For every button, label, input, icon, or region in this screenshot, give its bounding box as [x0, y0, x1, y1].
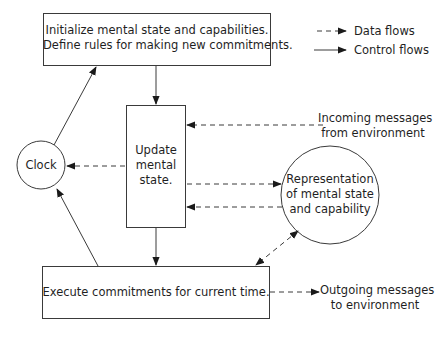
init-line-1: Initialize mental state and capabilities…: [43, 23, 271, 38]
incoming-line-2: from environment: [318, 126, 428, 141]
update-line-2: mental: [126, 158, 186, 173]
representation-line-2: of mental state: [282, 187, 378, 202]
outgoing-line-1: Outgoing messages: [320, 283, 430, 298]
update-box-label: Update mental state.: [126, 143, 186, 188]
edge-representation-execute: [256, 231, 298, 265]
representation-label: Representation of mental state and capab…: [282, 172, 378, 217]
init-box-label: Initialize mental state and capabilities…: [43, 23, 271, 53]
representation-line-3: and capability: [282, 202, 378, 217]
outgoing-messages-label: Outgoing messages to environment: [320, 283, 430, 313]
legend-data-flows: Data flows: [354, 24, 415, 39]
execute-box-label: Execute commitments for current time.: [42, 285, 270, 300]
incoming-line-1: Incoming messages: [318, 111, 428, 126]
incoming-messages-label: Incoming messages from environment: [318, 111, 428, 141]
init-line-2: Define rules for making new commitments.: [43, 38, 271, 53]
legend-control-flows: Control flows: [354, 43, 429, 58]
update-line-1: Update: [126, 143, 186, 158]
edge-execute-to-clock: [57, 189, 98, 266]
update-line-3: state.: [126, 173, 186, 188]
clock-label: Clock: [17, 158, 65, 173]
representation-line-1: Representation: [282, 172, 378, 187]
outgoing-line-2: to environment: [320, 298, 430, 313]
edge-clock-to-init: [54, 67, 96, 145]
